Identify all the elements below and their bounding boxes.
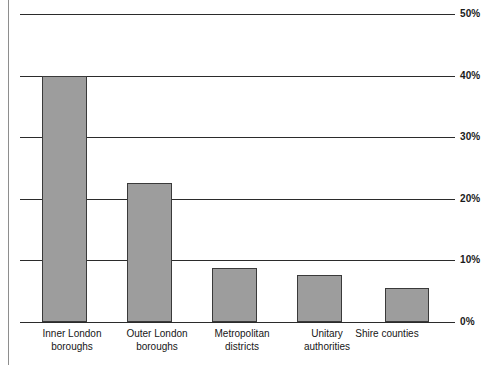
tick-stub-20 (443, 199, 455, 200)
tick-stub-50 (443, 14, 455, 15)
y-tick-label-30: 30% (460, 131, 480, 142)
y-tick-label-40: 40% (460, 70, 480, 81)
bar-unitary-authorities[interactable] (297, 275, 342, 322)
tick-stub-40 (443, 76, 455, 77)
bar-chart-figure: 50% 40% 30% 20% 10% 0% Inner London boro… (0, 0, 493, 365)
bar-outer-london-boroughs[interactable] (127, 183, 172, 322)
y-tick-label-20: 20% (460, 193, 480, 204)
bar-inner-london-boroughs[interactable] (42, 76, 87, 322)
y-tick-label-50: 50% (460, 8, 480, 19)
tick-stub-0 (443, 322, 455, 323)
figure-left-border (8, 0, 9, 365)
x-label-shire-counties: Shire counties (327, 328, 447, 341)
axis-baseline-0 (20, 322, 443, 323)
plot-area (20, 14, 443, 322)
tick-stub-30 (443, 137, 455, 138)
tick-stub-10 (443, 260, 455, 261)
bar-metropolitan-districts[interactable] (212, 268, 257, 322)
y-tick-label-0: 0% (460, 316, 475, 327)
bar-shire-counties[interactable] (385, 288, 429, 322)
bars-group (20, 14, 443, 322)
y-tick-label-10: 10% (460, 254, 480, 265)
